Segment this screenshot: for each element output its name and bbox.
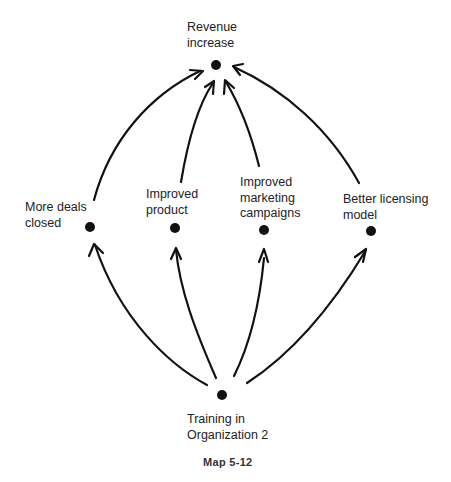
- edge-training-to-marketing: [234, 258, 264, 376]
- node-dot-revenue: [211, 60, 221, 70]
- node-label-marketing: Improved marketing campaigns: [240, 175, 300, 222]
- edge-licensing-to-revenue: [234, 67, 359, 183]
- diagram-canvas: [0, 0, 451, 482]
- node-label-training: Training in Organization 2: [187, 412, 268, 443]
- edge-deals-to-revenue: [94, 71, 200, 200]
- edge-training-to-licensing: [247, 250, 366, 383]
- figure-caption: Map 5-12: [203, 456, 252, 468]
- node-dot-product: [170, 223, 180, 233]
- node-label-revenue: Revenue increase: [187, 20, 237, 51]
- node-dot-licensing: [366, 226, 376, 236]
- node-label-deals: More deals closed: [25, 200, 87, 231]
- edge-training-to-product: [176, 250, 216, 378]
- edge-product-to-revenue: [181, 83, 213, 182]
- node-dot-marketing: [259, 225, 269, 235]
- node-dot-training: [217, 390, 227, 400]
- node-label-product: Improved product: [146, 187, 198, 218]
- edge-marketing-to-revenue: [226, 82, 259, 166]
- node-label-licensing: Better licensing model: [343, 192, 428, 223]
